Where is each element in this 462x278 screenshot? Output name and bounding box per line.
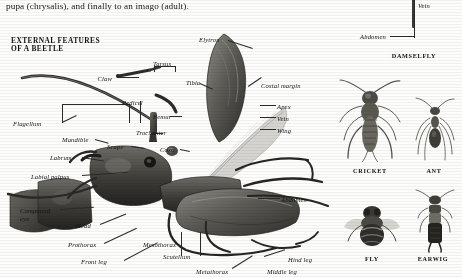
label-compound-eye: Compound — [20, 207, 50, 214]
label-femur: Femur — [153, 113, 171, 120]
label-wing: Wing — [277, 127, 291, 134]
label-claw: Claw — [97, 75, 112, 82]
label-tarsus: Tarsus — [153, 60, 171, 67]
label-pedicel: Pedicel — [122, 99, 143, 106]
label-mandible: Mandible — [62, 136, 88, 143]
beetle-plate-artwork — [0, 0, 330, 278]
label-front-leg: Front leg — [81, 258, 107, 265]
damselfly-vein-leader — [414, 0, 415, 38]
label-labial-palpus: Labial palpus — [31, 173, 69, 180]
label-abdomen-beetle: Abdomen — [281, 196, 307, 203]
label-mesothorax: Mesothorax — [143, 241, 176, 248]
label-scape: Scape — [107, 143, 124, 150]
label-hind-leg: Hind leg — [288, 256, 312, 263]
caption-fly: FLY — [365, 255, 379, 262]
label-flagellum: Flagellum — [13, 120, 41, 127]
ant-artwork — [412, 96, 458, 162]
label-vein-damselfly: Vein — [418, 2, 430, 9]
label-tibia: Tibia — [186, 79, 200, 86]
label-costal-margin: Costal margin — [261, 82, 301, 89]
cricket-artwork — [338, 78, 402, 162]
caption-ant: ANT — [426, 167, 441, 174]
damselfly-abdomen-leader — [390, 36, 414, 37]
label-labrum: Labrum — [50, 154, 72, 161]
caption-earwig: EARWIG — [418, 255, 448, 262]
earwig-artwork — [416, 190, 454, 252]
label-middle-leg: Middle leg — [267, 268, 297, 275]
label-coxa: Coxa — [160, 146, 175, 153]
caption-cricket: CRICKET — [353, 167, 387, 174]
label-trochanter: Trochanter — [136, 129, 167, 136]
fly-artwork — [344, 203, 400, 251]
label-head: Head — [76, 222, 91, 229]
label-scutellum: Scutellum — [163, 253, 190, 260]
caption-damselfly: DAMSELFLY — [392, 52, 437, 59]
label-abdomen-damselfly: Abdomen — [360, 33, 386, 40]
label-apex: Apex — [277, 103, 291, 110]
label-elytron: Elytron — [199, 36, 220, 43]
label-metathorax: Metathorax — [196, 268, 228, 275]
illustration-page: pupa (chrysalis), and finally to an imag… — [0, 0, 462, 278]
label-prothorax: Prothorax — [68, 241, 96, 248]
label-vein: Vein — [277, 115, 289, 122]
label-compound-eye-2: eye — [20, 215, 29, 222]
